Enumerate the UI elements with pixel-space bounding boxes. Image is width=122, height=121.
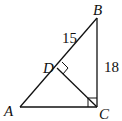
- label-a: A: [3, 103, 14, 119]
- label-c: C: [99, 106, 110, 121]
- right-angle-mark-d: [57, 62, 68, 74]
- segment-ab: [20, 18, 97, 107]
- label-bc-length: 18: [104, 59, 119, 75]
- label-b: B: [93, 2, 102, 18]
- label-d: D: [42, 60, 54, 76]
- diagram: B A C D 15 18: [0, 0, 122, 121]
- label-bd-length: 15: [62, 30, 77, 46]
